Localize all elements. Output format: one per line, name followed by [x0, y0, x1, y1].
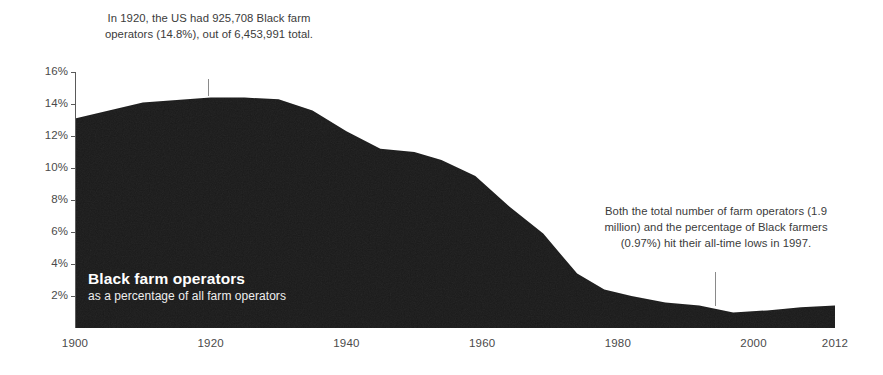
- x-axis-tick-labels: 1900192019401960198020002012: [0, 0, 883, 375]
- x-axis-tick-2012: 2012: [822, 338, 848, 350]
- x-axis-tick-1940: 1940: [333, 338, 359, 350]
- series-label-title: Black farm operators: [88, 270, 388, 288]
- x-axis-tick-1920: 1920: [198, 338, 224, 350]
- x-axis-tick-1980: 1980: [605, 338, 631, 350]
- annotation-1920-text: In 1920, the US had 925,708 Black farm o…: [98, 10, 320, 42]
- series-label: Black farm operators as a percentage of …: [88, 270, 388, 305]
- area-chart: 16%14%12%10%8%6%4%2% 1900192019401960198…: [0, 0, 883, 375]
- x-axis-tick-2000: 2000: [740, 338, 766, 350]
- x-axis-tick-1900: 1900: [62, 338, 88, 350]
- series-label-subtitle: as a percentage of all farm operators: [88, 289, 388, 305]
- x-axis-tick-1960: 1960: [469, 338, 495, 350]
- annotation-1997-text: Both the total number of farm operators …: [598, 203, 834, 251]
